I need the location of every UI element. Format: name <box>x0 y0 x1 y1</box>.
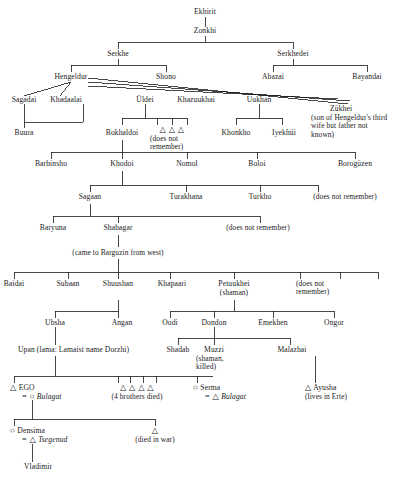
node-bokhaldoi: Bokhaldoi <box>106 129 139 138</box>
node-buura: Buura <box>14 129 33 138</box>
node-three-unnamed-sons-note: (does not remember) <box>150 135 198 152</box>
male-symbol-ayusha: △ <box>305 383 312 392</box>
node-shuushan: Shuushan <box>103 280 133 289</box>
node-four-brothers-note: (4 brothers died) <box>112 393 163 401</box>
node-upan: Upan (lama: Lamaist name Dorzhi) <box>18 346 129 355</box>
male-symbol-ego: △ <box>10 383 17 392</box>
node-khodoi: Khodoi <box>110 160 133 169</box>
node-ongor: Ongor <box>324 319 344 328</box>
node-baidai: Baidai <box>4 280 24 289</box>
node-serma-spouse-label: Bulagat <box>221 392 246 401</box>
node-serma-label: Serma <box>200 383 220 392</box>
node-ubsha: Ubsha <box>45 319 65 328</box>
node-khazuukhai: Khazuukhai <box>177 96 215 105</box>
node-serkhedei: Serkhedei <box>277 50 308 59</box>
node-densima-spouse: = △ Tsegenud <box>22 436 67 445</box>
node-nomol: Nomol <box>176 160 198 169</box>
node-ayusha-note: (lives in Erte) <box>305 393 347 401</box>
node-boloi: Boloi <box>248 160 265 169</box>
node-baryuna: Baryuna <box>40 224 66 233</box>
node-hengeldur: Hengeldur <box>55 73 88 82</box>
node-unnamed-son-note: (died in war) <box>135 436 174 444</box>
node-boroguzen: Borogüzen <box>338 160 372 169</box>
node-turakhana: Turakhana <box>169 193 202 202</box>
node-sagadai: Sagadai <box>12 96 37 105</box>
node-subaan: Subaan <box>57 280 80 289</box>
node-khonkho: Khonkho <box>222 129 251 138</box>
node-malazhai: Malazhai <box>277 346 306 355</box>
female-symbol-densima: ○ <box>10 426 15 435</box>
female-symbol-serma: ○ <box>193 383 198 392</box>
node-zonkhi: Zonkhi <box>194 27 217 36</box>
node-shadab: Shadab <box>167 346 190 355</box>
node-ego-label: EGO <box>19 383 35 392</box>
node-shono: Shono <box>156 73 176 82</box>
node-serma-spouse: = △ Bulagat <box>205 393 246 402</box>
genealogy-chart: Ekhirit Zonkhi Serkhe Serkhedei Hengeldu… <box>0 0 411 486</box>
node-ego-spouse-label: Bulagat <box>37 392 62 401</box>
node-oodi: Oodi <box>162 319 178 328</box>
node-petuukhei-sibling-note: (does not remember) <box>296 280 340 297</box>
node-petuukhei-note: (shaman) <box>220 289 248 297</box>
node-ekhirit: Ekhirit <box>194 8 216 17</box>
node-ego-spouse: = ○ Bulagat <box>22 393 62 402</box>
node-ayusha-label: Ayusha <box>313 383 336 392</box>
node-zukhei-note: (son of Hengeldur's third wife but fathe… <box>311 114 391 139</box>
node-vladimir: Vladimir <box>24 463 52 472</box>
node-iyekhui: Iyekhüi <box>272 129 296 138</box>
node-angan: Angan <box>112 319 133 328</box>
node-shabagar: Shabagar <box>103 224 132 233</box>
node-sagaan: Sagaan <box>79 193 102 202</box>
node-khapaari: Khapaari <box>158 280 187 289</box>
male-symbol-serma-spouse: = △ <box>205 392 219 401</box>
node-abazai: Abazai <box>262 73 284 82</box>
node-serkhe: Serkhe <box>107 50 129 59</box>
node-uukhan: Uukhan <box>247 96 272 105</box>
node-densima-label: Densima <box>17 426 45 435</box>
node-shabagar-origin-note: (came to Barguzin from west) <box>72 249 163 257</box>
node-emekhen: Emekhen <box>258 319 287 328</box>
node-muzzi-note: (shaman, killed) <box>196 355 236 372</box>
node-turkho: Turkho <box>249 193 272 202</box>
node-dondon: Dondon <box>201 319 226 328</box>
node-khadaalai: Khadaalai <box>50 96 82 105</box>
node-barbinsho: Barbinsho <box>35 160 67 169</box>
node-densima-spouse-label: Tsegenud <box>38 435 67 444</box>
node-uldei: Üldei <box>136 96 153 105</box>
node-turkho-sibling-note: (does not remember) <box>313 193 376 201</box>
node-shabagar-sibling-note: (does not remember) <box>226 224 289 232</box>
node-bayandai: Bayandai <box>352 73 381 82</box>
male-symbol-densima-spouse: = △ <box>22 435 36 444</box>
female-symbol-ego-spouse: = ○ <box>22 392 35 401</box>
